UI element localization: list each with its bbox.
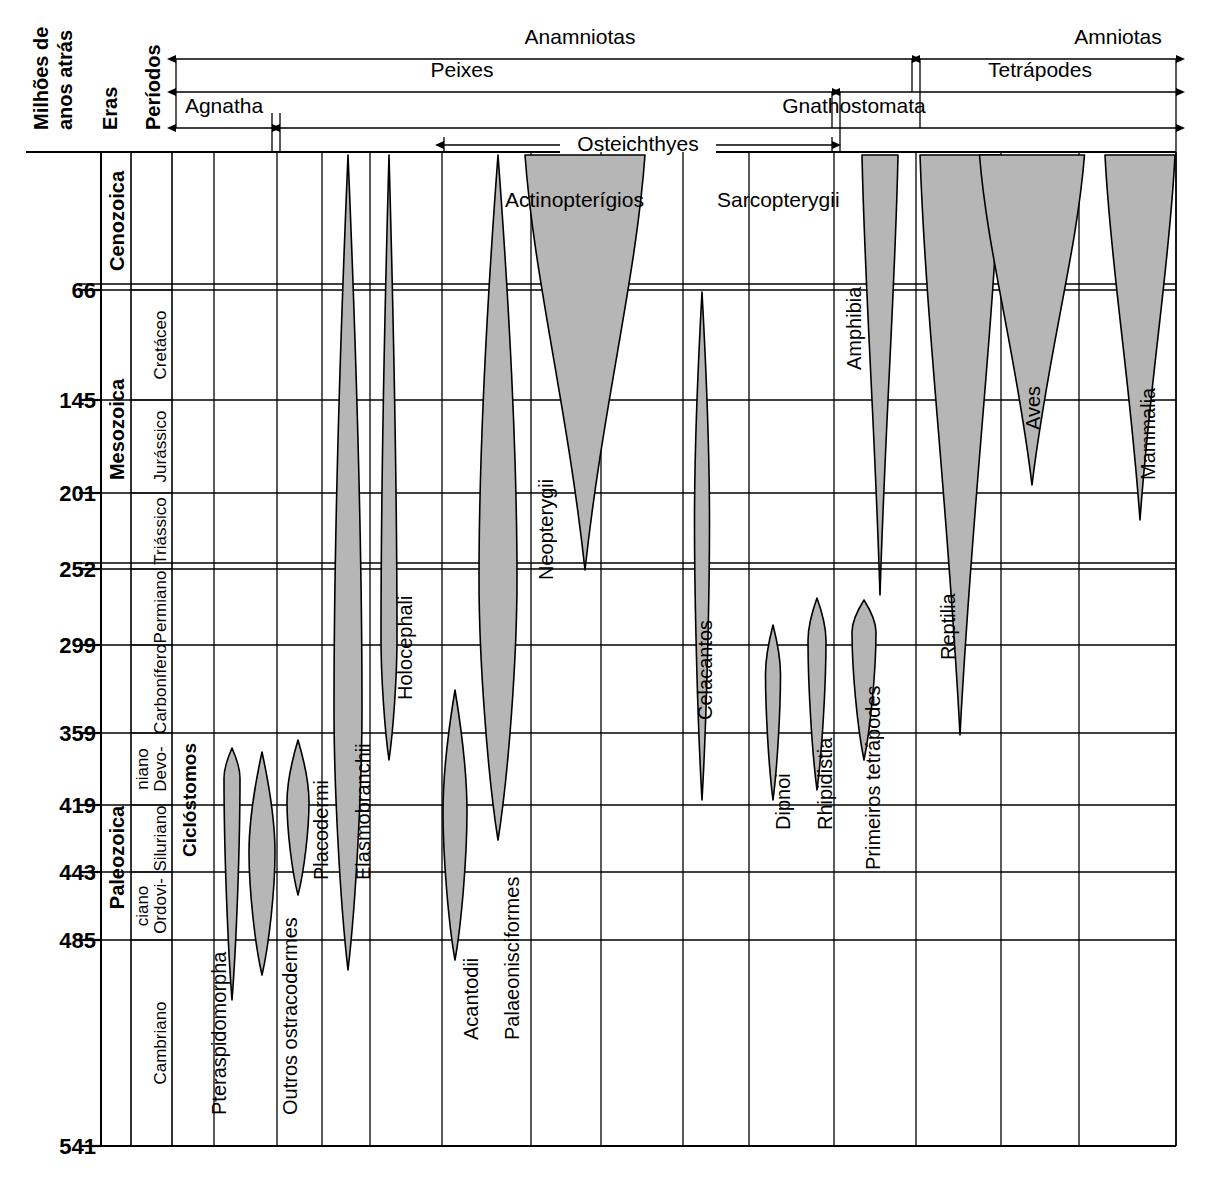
taxon-label-pteraspidomorpha: Pteraspidomorpha <box>208 951 230 1115</box>
period-label: Jurássico <box>151 411 170 483</box>
taxon-label-rhipidistia: Rhipidistia <box>814 737 836 830</box>
era-label: Paleozoica <box>106 805 128 909</box>
taxon-label-mammalia: Mammalia <box>1137 387 1159 480</box>
period-label: Cretáceo <box>151 311 170 380</box>
era-label: Cenozoica <box>106 170 128 271</box>
period-label: ciano <box>133 886 152 927</box>
axis-title-line2: anos atrás <box>54 30 76 130</box>
group-label-sarcopterygii: Sarcopterygii <box>717 188 840 211</box>
taxon-label-elasmobranchii: Elasmobranchii <box>352 743 374 880</box>
period-label: Permiano <box>151 571 170 644</box>
taxon-label-amphibia: Amphibia <box>843 286 865 370</box>
taxon-label-primeiros-tetrapodes: Primeiros tetrápodes <box>862 685 884 870</box>
bracket-label-peixes: Peixes <box>430 58 493 81</box>
bracket-label-osteichthyes: Osteichthyes <box>577 132 698 155</box>
bracket-label-tetrapodes: Tetrápodes <box>988 58 1092 81</box>
bracket-label-anamniotas: Anamniotas <box>525 25 636 48</box>
taxon-label-celacantos: Celacantos <box>694 620 716 720</box>
chart-svg: Milhões de anos atrás Eras Períodos 6614… <box>0 0 1232 1177</box>
taxon-label-acantodii: Acantodii <box>460 958 482 1040</box>
period-label: Ordovi- <box>151 878 170 934</box>
taxon-label-placodermi: Placodermi <box>310 780 332 880</box>
group-label-actinopterigios: Actinopterígios <box>505 188 644 211</box>
era-label: Mesozoica <box>106 378 128 480</box>
taxon-label-outros-ostracodermes: Outros ostracodermes <box>279 917 301 1115</box>
bracket-label-agnatha: Agnatha <box>185 94 264 117</box>
period-label: Triássico <box>151 497 170 564</box>
period-label: Carbonífero <box>151 644 170 734</box>
period-label: Cambriano <box>151 1001 170 1084</box>
period-label: Devo- <box>151 746 170 791</box>
taxon-label-aves: Aves <box>1022 386 1044 430</box>
group-label-ciclostomos: Ciclóstomos <box>179 743 200 857</box>
taxon-label-reptilia: Reptilia <box>937 592 959 660</box>
axis-title-line1: Milhões de <box>30 27 52 130</box>
taxon-label-dipnoi: Dipnoi <box>772 773 794 830</box>
taxon-label-palaeonisciformes: Palaeonisciformes <box>501 877 523 1040</box>
period-label: niano <box>133 748 152 790</box>
period-label: Siluriano <box>151 805 170 871</box>
taxon-label-neopterygii: Neopterygii <box>535 479 557 580</box>
taxon-label-holocephali: Holocephali <box>394 595 416 700</box>
periods-header: Períodos <box>142 44 164 130</box>
eras-header: Eras <box>99 87 121 130</box>
bracket-label-amniotas: Amniotas <box>1074 25 1162 48</box>
vertebrate-geologic-range-chart: Milhões de anos atrás Eras Períodos 6614… <box>0 0 1232 1177</box>
bracket-label-gnathostomata: Gnathostomata <box>782 94 926 117</box>
